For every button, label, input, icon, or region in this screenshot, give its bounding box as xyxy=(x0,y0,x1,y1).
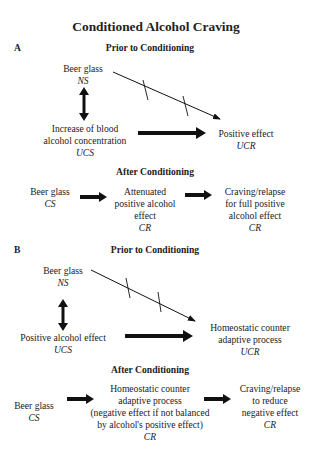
cr1-tag: CR xyxy=(105,222,185,234)
double-arrow-b xyxy=(58,299,68,331)
ucs-text: Positive alcohol effect xyxy=(4,332,122,344)
cr1-line3: (negative effect if not balanced xyxy=(80,407,220,419)
blocked-arrow-b xyxy=(91,270,195,321)
cr2-line2: to reduce xyxy=(230,395,310,407)
panel-a-prior-heading: Prior to Conditioning xyxy=(90,42,210,54)
ucr-line1: Homeostatic counter xyxy=(196,322,304,334)
cr1-line2: adaptive process xyxy=(80,395,220,407)
cs-text: Beer glass xyxy=(20,186,80,198)
cr1-line2: positive alcohol xyxy=(105,198,185,210)
cr2-line1: Craving/relapse xyxy=(212,186,298,198)
figure-title: Conditioned Alcohol Craving xyxy=(0,19,312,35)
cs-tag: CS xyxy=(20,198,80,210)
ucr-tag: UCR xyxy=(206,140,286,152)
thick-arrow-b-ucs-ucr xyxy=(125,330,193,342)
ns-tag: NS xyxy=(50,75,116,87)
ucs-line1: Increase of blood xyxy=(20,123,150,135)
ucs-tag: UCS xyxy=(4,344,122,356)
cr2-line1: Craving/relapse xyxy=(230,383,310,395)
cr2-line3: alcohol effect xyxy=(212,210,298,222)
cr2-line3: negative effect xyxy=(230,407,310,419)
blocked-arrow-a xyxy=(113,72,220,119)
thick-arrow-a-cs-cr xyxy=(80,192,107,202)
cs-tag: CS xyxy=(4,412,64,424)
cr2-line2: for full positive xyxy=(212,198,298,210)
ns-tag: NS xyxy=(30,277,96,289)
cr1-line1: Homeostatic counter xyxy=(80,383,220,395)
cr1-line3: effect xyxy=(105,210,185,222)
panel-a-label: A xyxy=(14,42,21,54)
cr1-tag: CR xyxy=(80,431,220,443)
cr1-line4: by alcohol's positive effect) xyxy=(80,419,220,431)
panel-b-after-heading: After Conditioning xyxy=(85,364,215,376)
double-arrow-a xyxy=(79,87,89,121)
ucr-line2: adaptive process xyxy=(196,334,304,346)
panel-b-label: B xyxy=(14,244,20,256)
cr2-tag: CR xyxy=(230,419,310,431)
ucs-line2: alcohol concentration xyxy=(20,135,150,147)
cr2-tag: CR xyxy=(212,222,298,234)
panel-b-prior-heading: Prior to Conditioning xyxy=(95,244,215,256)
ucr-text: Positive effect xyxy=(206,128,286,140)
ucr-tag: UCR xyxy=(196,346,304,358)
ns-text: Beer glass xyxy=(30,265,96,277)
panel-a-after-heading: After Conditioning xyxy=(90,166,220,178)
cs-text: Beer glass xyxy=(4,400,64,412)
cr1-line1: Attenuated xyxy=(105,186,185,198)
ucs-tag: UCS xyxy=(20,147,150,159)
thick-arrow-a-cr-cr xyxy=(185,190,212,200)
ns-text: Beer glass xyxy=(50,63,116,75)
